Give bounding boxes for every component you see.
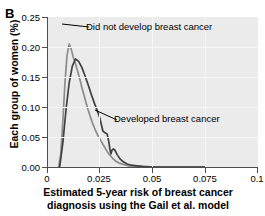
- x-tick-label: 0.05: [129, 174, 175, 184]
- y-tick-mark: [42, 137, 47, 138]
- y-tick-label: 0.05: [2, 133, 40, 143]
- x-tick-label: 0.025: [76, 174, 122, 184]
- y-axis-line: [47, 17, 48, 168]
- x-tick-label: 0: [24, 174, 70, 184]
- y-tick-label: 0.00: [2, 163, 40, 173]
- y-tick-mark: [42, 47, 47, 48]
- annotation-developed: Developed breast cancer: [114, 113, 220, 124]
- y-tick-mark: [42, 17, 47, 18]
- y-tick-label: 0.10: [2, 103, 40, 113]
- x-tick-label: 0.075: [182, 174, 228, 184]
- x-axis-title: Estimated 5-year risk of breast cancer d…: [18, 186, 258, 212]
- x-axis-title-line1: Estimated 5-year risk of breast cancer: [43, 186, 233, 198]
- y-tick-label: 0.20: [2, 43, 40, 53]
- annotation-leader-lines: [47, 17, 258, 167]
- leader-line-did-not-develop: [62, 24, 89, 27]
- y-tick-label: 0.25: [2, 13, 40, 23]
- y-tick-mark: [42, 107, 47, 108]
- annotation-did-not-develop: Did not develop breast cancer: [86, 21, 212, 32]
- figure-panel-b: B Each group of women (%) 0.25 0.20 0.15…: [0, 0, 265, 216]
- y-tick-mark: [42, 77, 47, 78]
- x-axis-title-line2: diagnosis using the Gail et al. model: [47, 199, 229, 211]
- y-tick-label: 0.15: [2, 73, 40, 83]
- x-tick-label: 0.1: [234, 174, 265, 184]
- plot-area: [47, 17, 258, 167]
